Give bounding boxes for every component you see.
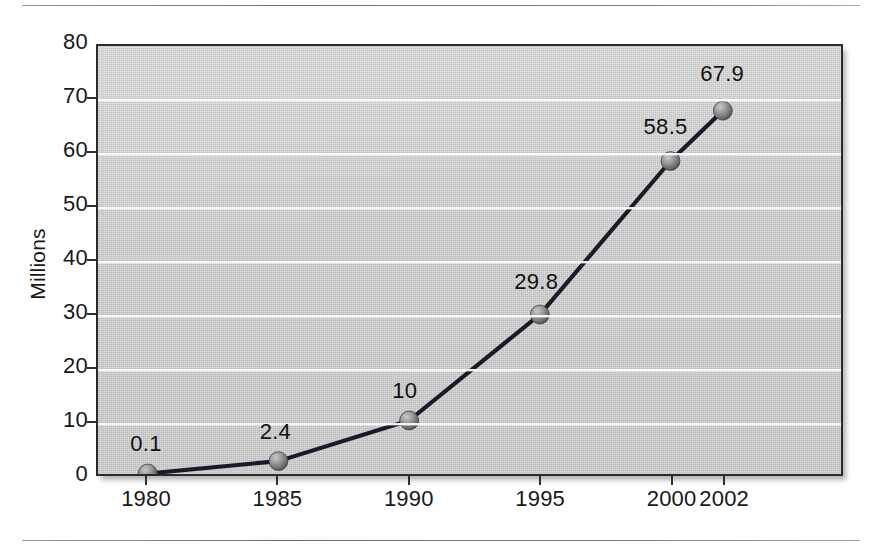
y-tick-label: 60: [63, 137, 88, 163]
x-tick-label: 2000: [647, 486, 697, 512]
data-point-marker: [713, 101, 732, 120]
x-tick-label: 1980: [121, 486, 171, 512]
gridline: [98, 153, 841, 155]
data-point-marker: [138, 464, 157, 476]
y-tick-label: 30: [63, 299, 88, 325]
plot-area: [96, 44, 843, 476]
data-value-label: 0.1: [130, 431, 161, 457]
x-tick-mark: [539, 476, 541, 485]
x-tick-mark: [408, 476, 410, 485]
x-tick-mark: [145, 476, 147, 485]
y-tick-label: 0: [75, 461, 88, 487]
x-tick-label: 2002: [699, 486, 749, 512]
gridline: [98, 423, 841, 425]
y-tick-label: 50: [63, 191, 88, 217]
y-tick-label: 40: [63, 245, 88, 271]
data-value-label: 10: [392, 378, 417, 404]
gridline: [98, 369, 841, 371]
x-tick-label: 1985: [253, 486, 303, 512]
y-axis-title: Millions: [26, 184, 50, 344]
y-tick-mark: [87, 151, 96, 153]
x-tick-mark: [671, 476, 673, 485]
x-tick-mark: [276, 476, 278, 485]
data-value-label: 29.8: [514, 269, 558, 295]
y-tick-mark: [87, 367, 96, 369]
data-point-marker: [400, 411, 419, 430]
y-tick-label: 10: [63, 407, 88, 433]
series-line: [148, 111, 723, 474]
y-tick-label: 20: [63, 353, 88, 379]
series-line-and-markers: [98, 46, 841, 474]
y-tick-mark: [87, 421, 96, 423]
data-point-marker: [269, 452, 288, 471]
y-tick-mark: [87, 259, 96, 261]
gridline: [98, 99, 841, 101]
x-tick-label: 1990: [384, 486, 434, 512]
x-tick-mark: [723, 476, 725, 485]
y-tick-mark: [87, 313, 96, 315]
data-value-label: 58.5: [644, 114, 688, 140]
x-tick-label: 1995: [515, 486, 565, 512]
data-value-label: 67.9: [700, 61, 744, 87]
gridline: [98, 315, 841, 317]
y-tick-label: 80: [63, 29, 88, 55]
gridline: [98, 207, 841, 209]
gridline: [98, 261, 841, 263]
y-tick-mark: [87, 205, 96, 207]
y-tick-label: 70: [63, 83, 88, 109]
line-chart-figure: 01020304050607080 Millions 1980198519901…: [0, 0, 879, 552]
y-tick-mark: [87, 97, 96, 99]
data-value-label: 2.4: [260, 419, 291, 445]
